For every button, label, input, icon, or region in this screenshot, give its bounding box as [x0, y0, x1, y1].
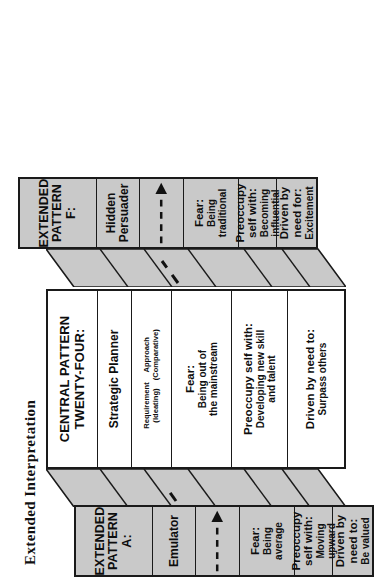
panel-a-row-driven-value: Be valued — [360, 517, 371, 564]
panel-central-row-fear: Fear: Being out of the mainstream — [172, 291, 232, 467]
panel-pattern-f[interactable]: EXTENDED PATTERN F: Hidden Persuader Fea… — [18, 177, 318, 249]
panel-f-row-driven-label: Driven by need for: — [278, 181, 304, 245]
panel-a-header-line2: PATTERN A: — [107, 509, 134, 573]
panel-a-arrow — [196, 507, 239, 575]
panel-f-row-preoccupy: Preoccupy self with: Becoming influentia… — [239, 179, 277, 247]
panel-f-role: Hidden Persuader — [97, 179, 140, 247]
panel-central-approach-value: (Comparative) — [152, 329, 161, 380]
panel-central-row-fear-value: Being out of the mainstream — [197, 342, 219, 416]
panel-a-row-preoccupy-label: Preoccupy self with: — [290, 509, 316, 573]
panel-central-requirement: Requirement (Ideating) — [143, 382, 160, 428]
panel-a-row-driven: Driven by need to: Be valued — [333, 507, 372, 575]
panel-central-row-driven-value: Surpass others — [317, 343, 328, 416]
connector-central-to-pattern-f — [46, 247, 346, 287]
panel-pattern-a[interactable]: EXTENDED PATTERN A: Emulator Fear: Being… — [74, 505, 374, 577]
panel-a-row-fear: Fear: Being average — [240, 507, 295, 575]
panel-central-row-preoccupy-value: Developing new skill and talent — [255, 330, 277, 428]
panel-a-row-driven-label: Driven by need to: — [334, 509, 360, 573]
panel-a-row-fear-label: Fear: — [249, 527, 262, 555]
panel-central-row-driven-label: Driven by need to: — [304, 329, 317, 429]
panel-f-header-line1: EXTENDED — [38, 179, 52, 248]
dashed-arrow-right-icon — [140, 179, 182, 247]
panel-f-row-fear-label: Fear: — [193, 199, 206, 227]
panel-a-role: Emulator — [153, 507, 196, 575]
dashed-arrow-right-icon — [196, 507, 238, 575]
connector-pattern-a-to-central — [46, 467, 346, 507]
panel-a-header-line1: EXTENDED — [94, 507, 108, 576]
panel-f-row-fear: Fear: Being traditional — [184, 179, 239, 247]
panel-a-role-label: Emulator — [168, 515, 181, 567]
diagram-stage: Extended Interpretation EXTENDED PATTERN — [0, 0, 384, 585]
panel-central-approach: Approach (Comparative) — [143, 329, 160, 380]
panel-central-row-fear-label: Fear: — [184, 365, 197, 393]
panel-central-header-line2: TWENTY-FOUR: — [73, 329, 87, 430]
panel-f-row-driven-value: Excitement — [304, 186, 315, 239]
panel-central-row-preoccupy-label: Preoccupy self with: — [242, 323, 255, 435]
panel-f-header-line2: PATTERN F: — [51, 181, 78, 245]
panel-central-row-driven: Driven by need to: Surpass others — [288, 291, 344, 467]
panel-f-arrow — [140, 179, 183, 247]
panel-central-requirement-value: (Ideating) — [152, 382, 161, 428]
panel-central-role-label: Strategic Planner — [108, 330, 121, 429]
panel-f-role-label: Hidden Persuader — [105, 181, 131, 245]
panel-a-row-preoccupy: Preoccupy self with: Moving upward — [295, 507, 333, 575]
panel-central-pattern-twenty-four[interactable]: CENTRAL PATTERN TWENTY-FOUR: Strategic P… — [46, 289, 346, 469]
panel-central-row-preoccupy: Preoccupy self with: Developing new skil… — [232, 291, 288, 467]
panel-central-header: CENTRAL PATTERN TWENTY-FOUR: — [48, 291, 98, 467]
panel-a-row-fear-value: Being average — [262, 509, 284, 573]
page-title: Extended Interpretation — [22, 400, 39, 565]
panel-f-row-driven: Driven by need for: Excitement — [277, 179, 316, 247]
panel-f-row-fear-value: Being traditional — [206, 181, 228, 245]
panel-a-header: EXTENDED PATTERN A: — [76, 507, 153, 575]
panel-f-header: EXTENDED PATTERN F: — [20, 179, 97, 247]
panel-central-header-line1: CENTRAL PATTERN — [58, 316, 72, 442]
panel-f-row-preoccupy-label: Preoccupy self with: — [234, 181, 260, 245]
panel-central-requirement-approach: Requirement (Ideating) Approach (Compara… — [132, 291, 172, 467]
panel-central-role: Strategic Planner — [98, 291, 132, 467]
